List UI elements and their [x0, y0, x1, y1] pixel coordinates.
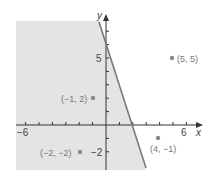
- inequality-graph: x y −6 6 5 −2 (5, 5) (−1, 2) (−2, −2) (4…: [0, 0, 211, 181]
- y-tick-label-5: 5: [96, 53, 102, 64]
- point-label-4-neg1: (4, −1): [150, 144, 176, 154]
- x-axis-label: x: [195, 127, 202, 138]
- y-axis-label: y: [96, 10, 103, 21]
- point-5-5: [170, 56, 174, 60]
- x-tick-label-neg6: −6: [17, 127, 29, 138]
- point-label-neg1-2: (−1, 2): [61, 94, 87, 104]
- point-4-neg1: [156, 136, 160, 140]
- point-label-neg2-neg2: (−2, −2): [40, 148, 72, 158]
- point-neg1-2: [91, 96, 95, 100]
- y-tick-label-neg2: −2: [91, 147, 103, 158]
- point-neg2-neg2: [78, 150, 82, 154]
- y-axis-arrow-icon: [103, 14, 109, 21]
- point-label-5-5: (5, 5): [177, 54, 198, 64]
- x-tick-label-6: 6: [181, 127, 187, 138]
